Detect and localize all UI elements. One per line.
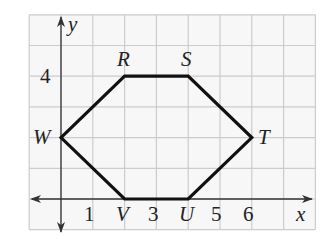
vertex-label-v: V: [116, 202, 131, 226]
vertex-label-w: W: [33, 125, 53, 149]
tick-label-y-4: 4: [40, 64, 51, 88]
coordinate-plane-figure: y x 4 1 3 5 6 W R S T U V: [0, 0, 329, 239]
vertex-label-t: T: [258, 125, 271, 149]
tick-label-x-1: 1: [84, 202, 95, 226]
grid-background: [29, 14, 316, 229]
y-axis-label: y: [66, 12, 78, 36]
tick-label-x-3: 3: [148, 202, 159, 226]
vertex-label-r: R: [116, 47, 130, 71]
x-axis-label: x: [295, 202, 306, 226]
vertex-label-s: S: [181, 47, 192, 71]
vertex-label-u: U: [179, 202, 196, 226]
tick-label-x-5: 5: [211, 202, 222, 226]
tick-label-x-6: 6: [243, 202, 254, 226]
